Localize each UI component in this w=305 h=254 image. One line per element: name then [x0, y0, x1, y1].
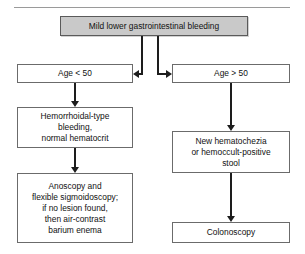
- node-root: Mild lower gastrointestinal bleeding: [60, 16, 248, 36]
- connector-root-right-elbow: [157, 73, 166, 75]
- connector-hematochezia-to-colonoscopy: [230, 173, 232, 218]
- connector-root-left-stem: [141, 36, 143, 73]
- node-anoscopy: Anoscopy and flexible sigmoidoscopy; if …: [17, 173, 133, 243]
- node-age-over-50: Age > 50: [172, 64, 290, 83]
- connector-age-under-50-to-hemorrhoidal: [74, 83, 76, 103]
- flowchart-canvas: Mild lower gastrointestinal bleeding Age…: [0, 0, 305, 254]
- node-age-under-50: Age < 50: [17, 64, 133, 83]
- node-colonoscopy: Colonoscopy: [172, 222, 290, 243]
- node-hematochezia: New hematochezia or hemoccult-positive s…: [172, 131, 290, 173]
- connector-hemorrhoidal-to-anoscopy: [74, 148, 76, 169]
- header-divider: [14, 7, 290, 8]
- connector-root-right-stem: [157, 36, 159, 73]
- connector-root-left-elbow: [139, 73, 143, 75]
- node-hemorrhoidal: Hemorrhoidal-type bleeding, normal hemat…: [17, 107, 133, 148]
- connector-age-over-50-to-hematochezia: [230, 83, 232, 127]
- arrow-left-icon: [133, 70, 139, 78]
